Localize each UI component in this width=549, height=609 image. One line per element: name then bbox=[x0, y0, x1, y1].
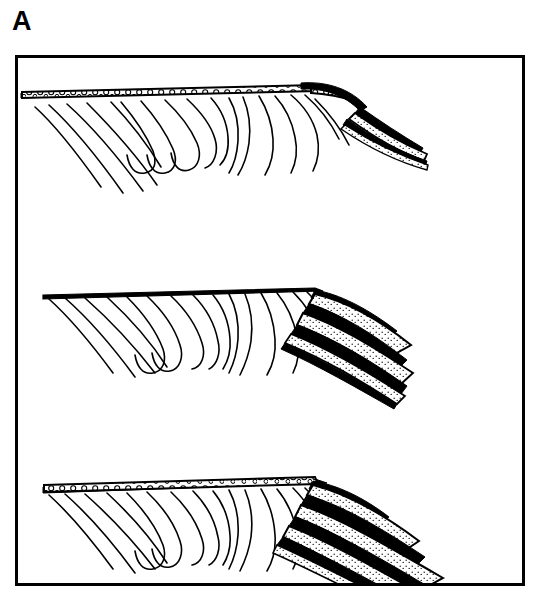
panel-label: A bbox=[12, 8, 32, 35]
cross-section-svg bbox=[15, 55, 525, 586]
figure-root: A bbox=[0, 0, 549, 609]
diagram-border bbox=[17, 57, 524, 585]
cross-section-diagram bbox=[15, 55, 525, 586]
